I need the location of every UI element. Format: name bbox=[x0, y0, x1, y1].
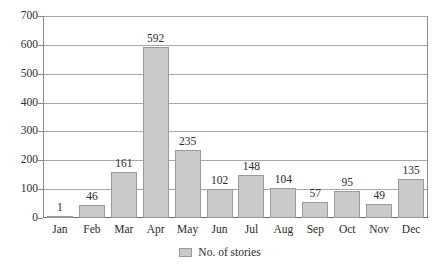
x-axis-label-jul: Jul bbox=[236, 223, 268, 236]
bar[interactable]: 135 bbox=[398, 179, 424, 218]
bar-slot: 49 bbox=[363, 17, 395, 218]
bar-value-label: 161 bbox=[115, 158, 132, 170]
bar[interactable]: 95 bbox=[334, 191, 360, 218]
bar[interactable]: 1 bbox=[47, 216, 73, 218]
bar-value-label: 148 bbox=[243, 161, 260, 173]
x-axis-label-mar: Mar bbox=[108, 223, 140, 236]
bar[interactable]: 161 bbox=[111, 172, 137, 218]
x-axis-label-oct: Oct bbox=[331, 223, 363, 236]
bar-slot: 104 bbox=[267, 17, 299, 218]
x-axis-category-labels: JanFebMarAprMayJunJulAugSepOctNovDec bbox=[44, 223, 427, 236]
bar-slot: 46 bbox=[76, 17, 108, 218]
x-axis-label-jun: Jun bbox=[204, 223, 236, 236]
legend-label: No. of stories bbox=[198, 246, 260, 258]
bar-value-label: 95 bbox=[342, 177, 354, 189]
bar-slot: 592 bbox=[140, 17, 172, 218]
bar-slot: 161 bbox=[108, 17, 140, 218]
y-axis-tick-mark bbox=[38, 218, 43, 219]
bar[interactable]: 592 bbox=[143, 47, 169, 218]
bar-value-label: 57 bbox=[310, 188, 322, 200]
bar-slot: 235 bbox=[172, 17, 204, 218]
x-axis-label-jan: Jan bbox=[44, 223, 76, 236]
legend-swatch-icon bbox=[179, 248, 192, 257]
bar-slot: 148 bbox=[236, 17, 268, 218]
bar-value-label: 592 bbox=[147, 33, 164, 45]
bar-slot: 57 bbox=[299, 17, 331, 218]
y-axis-tick-marks bbox=[0, 16, 43, 218]
x-axis-label-may: May bbox=[172, 223, 204, 236]
bar[interactable]: 102 bbox=[207, 189, 233, 218]
bar-value-label: 102 bbox=[211, 175, 228, 187]
bar-slot: 95 bbox=[331, 17, 363, 218]
bar[interactable]: 104 bbox=[270, 188, 296, 218]
bar-value-label: 49 bbox=[373, 190, 385, 202]
bar-chart: 0100200300400500600700 14616159223510214… bbox=[0, 0, 440, 271]
x-axis-label-dec: Dec bbox=[395, 223, 427, 236]
x-axis-label-feb: Feb bbox=[76, 223, 108, 236]
bar[interactable]: 148 bbox=[238, 175, 264, 218]
bar-slot: 135 bbox=[395, 17, 427, 218]
bar-slot: 102 bbox=[204, 17, 236, 218]
bar-value-label: 235 bbox=[179, 136, 196, 148]
chart-legend: No. of stories bbox=[0, 246, 440, 258]
bar[interactable]: 235 bbox=[175, 150, 201, 218]
bar-slot: 1 bbox=[44, 17, 76, 218]
x-axis-label-nov: Nov bbox=[363, 223, 395, 236]
bar-value-label: 135 bbox=[402, 165, 419, 177]
x-axis-label-aug: Aug bbox=[267, 223, 299, 236]
bar[interactable]: 57 bbox=[302, 202, 328, 218]
bar-value-label: 1 bbox=[57, 202, 63, 214]
x-axis-label-sep: Sep bbox=[299, 223, 331, 236]
bars-layer: 146161592235102148104579549135 bbox=[44, 17, 427, 218]
x-axis-label-apr: Apr bbox=[140, 223, 172, 236]
bar-value-label: 46 bbox=[86, 191, 98, 203]
bar[interactable]: 46 bbox=[79, 205, 105, 218]
bar-value-label: 104 bbox=[275, 174, 292, 186]
bar[interactable]: 49 bbox=[366, 204, 392, 218]
